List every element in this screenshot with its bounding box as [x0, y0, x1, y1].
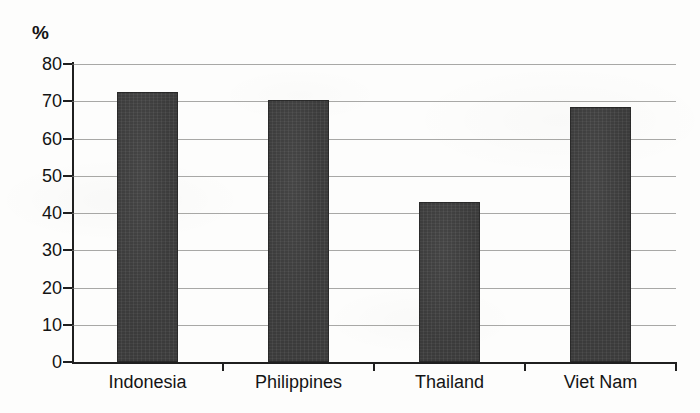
y-axis-tick-label: 80 — [0, 54, 62, 75]
y-axis-tick-label: 40 — [0, 203, 62, 224]
y-axis-tick-label: 30 — [0, 240, 62, 261]
y-axis-unit-label: % — [32, 22, 49, 44]
y-axis-tick — [63, 100, 72, 102]
y-axis-tick-labels: 80706050403020100 — [0, 64, 62, 362]
x-axis-tick — [373, 362, 375, 371]
y-axis-tick — [63, 361, 72, 363]
x-axis-tick — [222, 362, 224, 371]
bar — [268, 100, 329, 362]
gridline — [72, 64, 676, 65]
bar — [117, 92, 178, 362]
x-axis-tick — [675, 362, 677, 371]
bar-chart: % 80706050403020100 IndonesiaPhilippines… — [0, 0, 700, 413]
x-axis-tick — [524, 362, 526, 371]
bar — [419, 202, 480, 362]
plot-area — [72, 64, 676, 362]
y-axis-tick — [63, 63, 72, 65]
y-axis-tick — [63, 212, 72, 214]
y-axis-tick-label: 0 — [0, 352, 62, 373]
y-axis-tick-label: 50 — [0, 165, 62, 186]
x-axis-tick-label: Thailand — [415, 372, 484, 393]
y-axis-tick-label: 70 — [0, 91, 62, 112]
x-axis-tick-label: Philippines — [255, 372, 342, 393]
y-axis-tick-label: 10 — [0, 314, 62, 335]
y-axis-tick — [63, 138, 72, 140]
x-axis-category-labels: IndonesiaPhilippinesThailandViet Nam — [72, 372, 676, 402]
x-axis-tick-label: Viet Nam — [564, 372, 638, 393]
y-axis-tick — [63, 287, 72, 289]
y-axis-tick — [63, 175, 72, 177]
y-axis-tick-label: 20 — [0, 277, 62, 298]
y-axis-tick — [63, 324, 72, 326]
x-axis-tick-label: Indonesia — [108, 372, 186, 393]
bar — [570, 107, 631, 362]
y-axis-tick — [63, 249, 72, 251]
y-axis-tick-label: 60 — [0, 128, 62, 149]
